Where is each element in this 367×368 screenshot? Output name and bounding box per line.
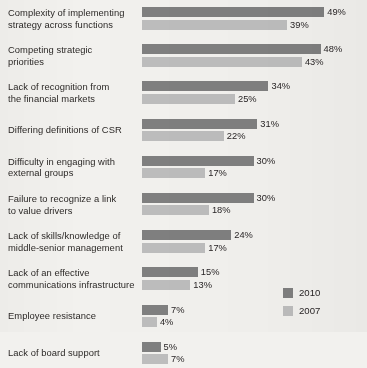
category-label: Differing definitions of CSR: [0, 124, 142, 136]
chart-row: Lack of board support5%7%: [0, 335, 367, 368]
bar-item-2010: 7%: [142, 305, 184, 315]
category-label-line: to value drivers: [8, 205, 138, 217]
category-label-line: Differing definitions of CSR: [8, 124, 122, 135]
bar-item-2010: 34%: [142, 81, 290, 91]
chart-row: Complexity of implementingstrategy acros…: [0, 0, 367, 37]
bar-2007: [142, 131, 224, 141]
bar-value-label: 30%: [254, 193, 276, 203]
bar-group: 5%7%: [142, 335, 367, 368]
bar-item-2007: 18%: [142, 205, 231, 215]
chart-row: Lack of recognition fromthe financial ma…: [0, 74, 367, 111]
category-label-line: Failure to recognize a link: [8, 193, 116, 204]
legend-swatch-icon-2007: [283, 306, 293, 316]
category-label-line: Lack of recognition from: [8, 81, 109, 92]
bar-2010: [142, 119, 257, 129]
category-label: Lack of skills/knowledge ofmiddle-senior…: [0, 230, 142, 253]
bar-group: 34%25%: [142, 74, 367, 111]
category-label-line: Employee resistance: [8, 310, 96, 321]
chart-row: Failure to recognize a linkto value driv…: [0, 186, 367, 223]
legend-swatch-icon-2010: [283, 288, 293, 298]
bar-item-2010: 30%: [142, 156, 275, 166]
bar-group: 30%17%: [142, 149, 367, 186]
bar-item-2007: 17%: [142, 243, 227, 253]
bar-group: 49%39%: [142, 0, 367, 37]
bar-item-2007: 7%: [142, 354, 184, 364]
category-label-line: Lack of skills/knowledge of: [8, 230, 120, 241]
category-label-line: strategy across functions: [8, 19, 138, 31]
bar-value-label: 22%: [224, 131, 246, 141]
category-label: Lack of recognition fromthe financial ma…: [0, 81, 142, 104]
category-label-line: Complexity of implementing: [8, 7, 124, 18]
category-label: Difficulty in engaging withexternal grou…: [0, 156, 142, 179]
category-label-line: external groups: [8, 167, 138, 179]
bar-value-label: 24%: [231, 230, 253, 240]
category-label-line: Competing strategic: [8, 44, 92, 55]
bar-2010: [142, 193, 254, 203]
bar-2010: [142, 81, 268, 91]
bar-item-2010: 15%: [142, 267, 219, 277]
bar-value-label: 30%: [254, 156, 276, 166]
bar-value-label: 39%: [287, 20, 309, 30]
bar-value-label: 43%: [302, 57, 324, 67]
category-label-line: Lack of an effective: [8, 267, 90, 278]
bar-2007: [142, 94, 235, 104]
bar-value-label: 34%: [268, 81, 290, 91]
bar-2007: [142, 317, 157, 327]
bar-2010: [142, 44, 321, 54]
bar-item-2007: 22%: [142, 131, 245, 141]
category-label: Lack of board support: [0, 347, 142, 359]
bar-item-2010: 24%: [142, 230, 253, 240]
bar-2010: [142, 230, 231, 240]
chart-row: Differing definitions of CSR31%22%: [0, 112, 367, 149]
chart-row: Lack of skills/knowledge ofmiddle-senior…: [0, 223, 367, 260]
chart-legend: 2010 2007: [283, 285, 357, 321]
legend-item-2010: 2010: [283, 285, 357, 300]
category-label-line: communications infrastructure: [8, 279, 138, 291]
category-label: Failure to recognize a linkto value driv…: [0, 193, 142, 216]
category-label-line: Lack of board support: [8, 347, 100, 358]
bar-2010: [142, 156, 254, 166]
bar-group: 31%22%: [142, 112, 367, 149]
legend-label-2010: 2010: [299, 288, 320, 298]
bar-group: 48%43%: [142, 37, 367, 74]
bar-item-2010: 31%: [142, 119, 279, 129]
bar-value-label: 25%: [235, 94, 257, 104]
bar-2010: [142, 267, 198, 277]
category-label: Complexity of implementingstrategy acros…: [0, 7, 142, 30]
bar-value-label: 17%: [205, 168, 227, 178]
legend-label-2007: 2007: [299, 306, 320, 316]
category-label-line: priorities: [8, 56, 138, 68]
bar-2007: [142, 20, 287, 30]
bar-value-label: 31%: [257, 119, 279, 129]
bar-item-2007: 17%: [142, 168, 227, 178]
bar-2007: [142, 243, 205, 253]
bar-item-2010: 49%: [142, 7, 346, 17]
bar-value-label: 5%: [161, 342, 177, 352]
bar-value-label: 15%: [198, 267, 220, 277]
category-label: Lack of an effectivecommunications infra…: [0, 267, 142, 290]
bar-2007: [142, 280, 190, 290]
category-label-line: Difficulty in engaging with: [8, 156, 115, 167]
bar-item-2007: 13%: [142, 280, 212, 290]
bar-value-label: 17%: [205, 243, 227, 253]
category-label: Employee resistance: [0, 310, 142, 322]
bar-item-2007: 39%: [142, 20, 309, 30]
bar-value-label: 48%: [321, 44, 343, 54]
legend-item-2007: 2007: [283, 303, 357, 318]
bar-value-label: 18%: [209, 205, 231, 215]
bar-value-label: 13%: [190, 280, 212, 290]
bar-group: 30%18%: [142, 186, 367, 223]
bar-value-label: 7%: [168, 305, 184, 315]
bar-item-2010: 30%: [142, 193, 275, 203]
bar-item-2010: 48%: [142, 44, 342, 54]
bar-2007: [142, 354, 168, 364]
bar-item-2007: 43%: [142, 57, 324, 67]
bar-item-2007: 25%: [142, 94, 257, 104]
bar-2010: [142, 305, 168, 315]
category-label-line: middle-senior management: [8, 242, 138, 254]
bar-2007: [142, 168, 205, 178]
bar-2007: [142, 57, 302, 67]
bar-item-2010: 5%: [142, 342, 177, 352]
bar-2010: [142, 342, 161, 352]
